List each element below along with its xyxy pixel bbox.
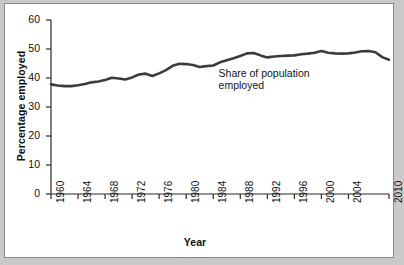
x-tick-label: 1988 bbox=[244, 181, 255, 203]
x-tick-label: 2010 bbox=[393, 181, 404, 203]
series-annotation: Share of population employed bbox=[219, 68, 310, 91]
x-tick-label: 1976 bbox=[163, 181, 174, 203]
x-tick-label: 1972 bbox=[136, 181, 147, 203]
y-tick-label: 0 bbox=[14, 187, 40, 199]
x-tick-label: 1992 bbox=[271, 181, 282, 203]
x-tick-label: 1996 bbox=[298, 181, 309, 203]
x-tick-label: 1964 bbox=[82, 181, 93, 203]
x-tick-label: 1960 bbox=[55, 181, 66, 203]
figure-panel: 0102030405060 19601964196819721976198019… bbox=[4, 3, 394, 258]
chart-plot-area: 0102030405060 19601964196819721976198019… bbox=[5, 4, 395, 259]
x-tick-label: 1968 bbox=[109, 181, 120, 203]
line-chart-svg bbox=[5, 4, 395, 259]
y-tick-marks bbox=[46, 20, 51, 194]
y-tick-label: 60 bbox=[14, 13, 40, 25]
x-tick-label: 1980 bbox=[190, 181, 201, 203]
x-tick-label: 2004 bbox=[352, 181, 363, 203]
axes-group bbox=[51, 20, 389, 194]
x-axis-title: Year bbox=[155, 236, 235, 248]
y-axis-title: Percentage employed bbox=[15, 46, 27, 166]
x-tick-label: 2000 bbox=[325, 181, 336, 203]
x-tick-label: 1984 bbox=[217, 181, 228, 203]
